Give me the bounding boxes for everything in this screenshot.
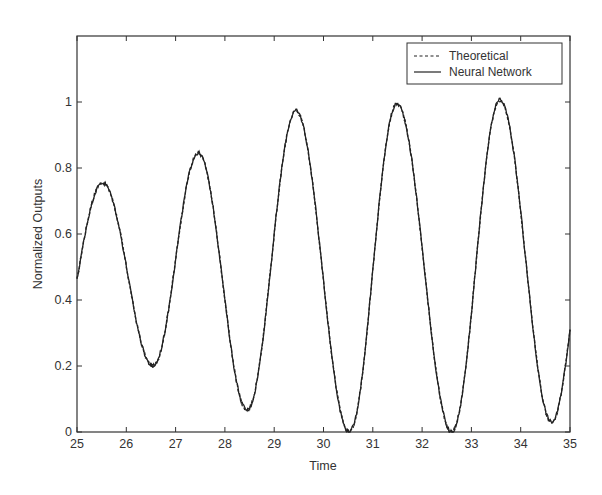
x-tick-label: 25	[70, 437, 84, 451]
y-tick-label: 0.2	[55, 359, 72, 373]
x-tick-label: 30	[317, 437, 331, 451]
y-tick-label: 0	[65, 425, 72, 439]
x-tick-label: 26	[119, 437, 133, 451]
x-tick-label: 32	[415, 437, 429, 451]
legend: Theoretical Neural Network	[407, 43, 562, 84]
x-tick-label: 29	[267, 437, 281, 451]
y-axis-label: Normalized Outputs	[31, 179, 45, 289]
legend-label-theoretical: Theoretical	[449, 49, 508, 63]
x-tick-label: 33	[464, 437, 478, 451]
x-tick-label: 28	[218, 437, 232, 451]
y-tick-label: 0.6	[55, 227, 72, 241]
y-tick-label: 0.4	[55, 293, 72, 307]
y-tick-label: 0.8	[55, 161, 72, 175]
x-axis-label: Time	[309, 459, 336, 473]
y-tick-label: 1	[65, 95, 72, 109]
line-chart: 2526272829303132333435 00.20.40.60.81 Ti…	[0, 0, 602, 495]
plot-area: 2526272829303132333435 00.20.40.60.81	[55, 36, 577, 451]
x-tick-label: 35	[563, 437, 577, 451]
x-tick-label: 27	[169, 437, 183, 451]
x-tick-label: 34	[514, 437, 528, 451]
plot-frame	[77, 36, 570, 432]
x-tick-label: 31	[366, 437, 380, 451]
legend-label-neural-network: Neural Network	[449, 65, 533, 79]
